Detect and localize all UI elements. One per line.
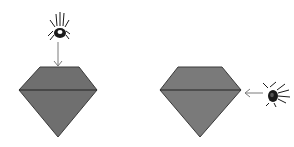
- right-gem-shape: [160, 67, 241, 137]
- left-gem-shape: [19, 67, 97, 137]
- arrow-left-icon: [245, 89, 263, 97]
- bug-icon: [48, 12, 70, 40]
- diagram-canvas: [0, 0, 294, 147]
- arrow-down-icon: [54, 42, 62, 66]
- left-panel: [19, 12, 97, 137]
- bug-icon: [263, 82, 290, 107]
- right-panel: [160, 67, 290, 137]
